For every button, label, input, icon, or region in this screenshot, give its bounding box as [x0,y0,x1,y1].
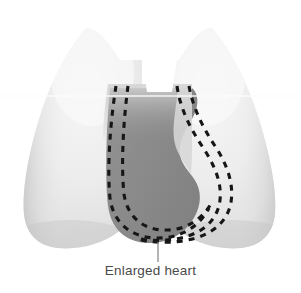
figure-root: Enlarged heart [0,0,301,293]
chest-anatomy-illustration [0,0,301,293]
